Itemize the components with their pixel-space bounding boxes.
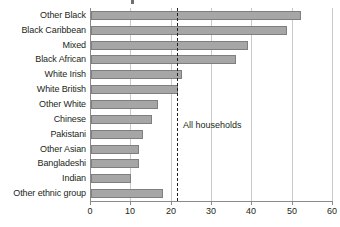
category-label: Pakistani — [0, 129, 86, 139]
bar-chart: 0102030405060 Other BlackBlack Caribbean… — [0, 0, 340, 227]
bar-row: Other ethnic group — [0, 186, 340, 201]
x-tick-label: 60 — [317, 206, 340, 217]
x-tick-20 — [171, 201, 172, 205]
x-tick-label: 0 — [75, 206, 105, 217]
bar — [91, 85, 178, 94]
bar-row: Indian — [0, 171, 340, 186]
bar-row: White Irish — [0, 67, 340, 82]
category-label: Mixed — [0, 40, 86, 50]
bar — [91, 100, 158, 109]
bar — [91, 70, 182, 79]
x-tick-label: 30 — [196, 206, 226, 217]
category-label: Black Caribbean — [0, 25, 86, 35]
x-tick-label: 10 — [115, 206, 145, 217]
all-households-reference-line — [177, 8, 178, 201]
bar — [91, 145, 139, 154]
x-tick-10 — [130, 201, 131, 205]
category-label: Black African — [0, 54, 86, 64]
bar — [91, 130, 143, 139]
bar — [91, 41, 248, 50]
bar — [91, 115, 152, 124]
category-label: Other Asian — [0, 144, 86, 154]
bar-row: White British — [0, 82, 340, 97]
bar-rows: Other BlackBlack CaribbeanMixedBlack Afr… — [0, 8, 340, 201]
bar-row: Chinese — [0, 112, 340, 127]
bar-row: Other Black — [0, 8, 340, 23]
x-tick-40 — [251, 201, 252, 205]
bar — [91, 174, 131, 183]
category-label: Chinese — [0, 114, 86, 124]
x-tick-label: 50 — [277, 206, 307, 217]
category-label: Bangladeshi — [0, 158, 86, 168]
bar-row: Other White — [0, 97, 340, 112]
bar-row: Black African — [0, 53, 340, 68]
bar — [91, 159, 139, 168]
x-tick-label: 20 — [156, 206, 186, 217]
category-label: Other ethnic group — [0, 188, 86, 198]
x-tick-label: 40 — [236, 206, 266, 217]
bar — [91, 26, 287, 35]
bar-row: Pakistani — [0, 127, 340, 142]
bar-row: Bangladeshi — [0, 156, 340, 171]
title-clipped-mark — [131, 0, 134, 4]
category-label: Other White — [0, 99, 86, 109]
bar-row: Other Asian — [0, 142, 340, 157]
bar — [91, 11, 301, 20]
all-households-reference-label: All households — [183, 120, 242, 130]
x-tick-60 — [332, 201, 333, 205]
bar — [91, 55, 236, 64]
x-tick-30 — [211, 201, 212, 205]
category-label: Other Black — [0, 10, 86, 20]
category-label: White British — [0, 84, 86, 94]
bar-row: Mixed — [0, 38, 340, 53]
category-label: Indian — [0, 173, 86, 183]
x-tick-50 — [292, 201, 293, 205]
bar-row: Black Caribbean — [0, 23, 340, 38]
x-tick-0 — [90, 201, 91, 205]
category-label: White Irish — [0, 69, 86, 79]
bar — [91, 189, 163, 198]
